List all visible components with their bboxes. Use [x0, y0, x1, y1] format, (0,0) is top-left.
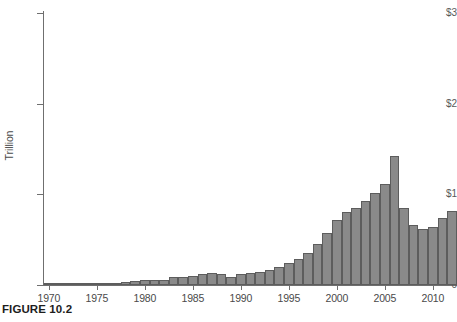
x-tick-label: 1980 — [125, 292, 165, 304]
bar — [447, 211, 457, 285]
bar — [246, 273, 256, 285]
x-tick-mark — [241, 286, 242, 290]
x-tick-label: 1975 — [77, 292, 117, 304]
bar — [265, 270, 275, 285]
bar — [217, 274, 227, 285]
figure-container: Trillion 0$1$2$3 19701975198019851990199… — [0, 0, 457, 322]
bar — [438, 218, 448, 285]
bar — [409, 225, 419, 285]
x-tick-mark — [433, 286, 434, 290]
x-tick-label: 2010 — [413, 292, 453, 304]
bar — [92, 283, 102, 286]
bar — [361, 201, 371, 285]
x-tick-mark — [337, 286, 338, 290]
bar — [313, 244, 323, 285]
bar — [255, 272, 265, 285]
bar — [332, 220, 342, 285]
bar — [54, 283, 64, 286]
x-tick-mark — [385, 286, 386, 290]
x-tick-mark — [193, 286, 194, 290]
bar — [111, 283, 121, 286]
bar — [121, 282, 131, 285]
x-tick-mark — [49, 286, 50, 290]
bar — [63, 283, 73, 286]
bar — [169, 277, 179, 285]
x-tick-label: 2000 — [317, 292, 357, 304]
bar — [73, 283, 83, 286]
bar — [150, 280, 160, 285]
bar — [370, 193, 380, 285]
bar — [159, 280, 169, 285]
bar — [82, 283, 92, 286]
x-tick-label: 1990 — [221, 292, 261, 304]
bar — [418, 229, 428, 285]
bar — [236, 274, 246, 285]
bar — [130, 281, 140, 285]
bars-layer — [44, 11, 457, 285]
x-tick-mark — [145, 286, 146, 290]
bar — [380, 184, 390, 285]
x-tick-mark — [97, 286, 98, 290]
x-axis-line — [43, 285, 457, 286]
bar — [44, 283, 54, 286]
bar — [428, 227, 438, 285]
bar — [322, 233, 332, 285]
bar — [102, 283, 112, 286]
figure-caption: FIGURE 10.2 — [2, 303, 72, 315]
y-tick-mark — [37, 104, 43, 105]
y-axis-title: Trillion — [4, 106, 15, 186]
x-tick-label: 1995 — [269, 292, 309, 304]
x-tick-label: 1985 — [173, 292, 213, 304]
bar — [351, 208, 361, 285]
x-tick-mark — [289, 286, 290, 290]
bar — [178, 277, 188, 285]
bar — [226, 277, 236, 285]
bar — [284, 263, 294, 285]
bar — [188, 276, 198, 285]
x-tick-label: 2005 — [365, 292, 405, 304]
y-tick-mark — [37, 194, 43, 195]
y-tick-mark — [37, 13, 43, 14]
bar — [399, 208, 409, 285]
bar — [207, 273, 217, 285]
bar — [274, 267, 284, 285]
bar — [303, 253, 313, 285]
bar — [294, 259, 304, 285]
y-tick-mark — [37, 285, 43, 286]
bar — [342, 212, 352, 285]
bar — [198, 274, 208, 285]
bar — [390, 156, 400, 285]
bar — [140, 280, 150, 285]
